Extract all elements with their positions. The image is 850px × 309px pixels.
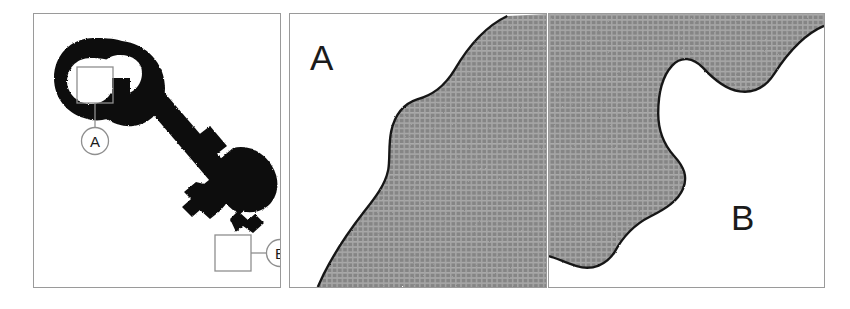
figure-root: A B Three-panel figure: a black key silh… xyxy=(0,0,850,309)
callout-b-box xyxy=(215,235,251,271)
callout-b: B xyxy=(215,235,281,271)
detail-a-letter: A xyxy=(310,40,333,75)
callout-b-label: B xyxy=(275,245,281,262)
key-bit-tip xyxy=(230,211,264,233)
key-silhouette-illustration: A B xyxy=(34,14,281,288)
panel-detail-b: B xyxy=(548,13,825,288)
detail-b-letter: B xyxy=(731,200,754,235)
callout-a-label: A xyxy=(90,133,100,150)
panel-key-overview: A B Three-panel figure: a black key silh… xyxy=(33,13,281,288)
panel-detail-a: A xyxy=(289,13,547,288)
key-bow-inner-notch xyxy=(112,78,130,106)
detail-b-illustration xyxy=(549,14,824,287)
